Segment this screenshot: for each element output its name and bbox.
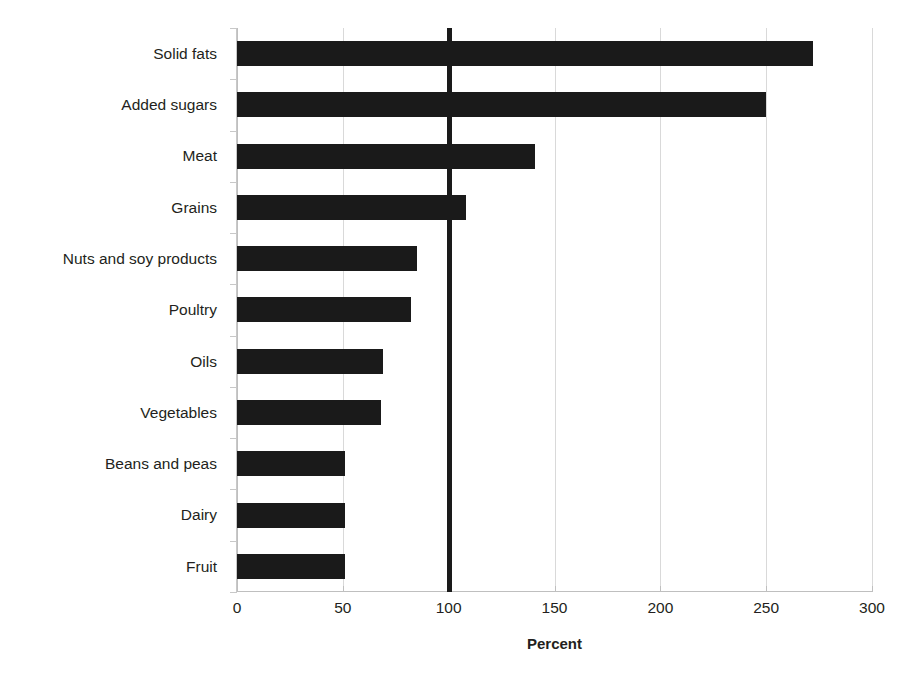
category-label: Fruit bbox=[0, 541, 227, 592]
bar-row bbox=[237, 28, 872, 79]
bar bbox=[237, 195, 466, 220]
bar bbox=[237, 144, 535, 169]
bar-series bbox=[237, 28, 872, 592]
category-label: Poultry bbox=[0, 284, 227, 335]
y-axis-tick bbox=[230, 182, 237, 183]
category-label: Nuts and soy products bbox=[0, 233, 227, 284]
bar-row bbox=[237, 336, 872, 387]
y-axis-tick bbox=[230, 79, 237, 80]
plot-area bbox=[237, 28, 872, 592]
y-axis-tick bbox=[230, 336, 237, 337]
bar-row bbox=[237, 387, 872, 438]
x-axis-tick-label: 200 bbox=[647, 600, 673, 616]
bar-chart: Solid fatsAdded sugarsMeatGrainsNuts and… bbox=[0, 0, 914, 679]
y-axis-tick bbox=[230, 131, 237, 132]
category-label: Added sugars bbox=[0, 79, 227, 130]
bar-row bbox=[237, 541, 872, 592]
y-axis-tick bbox=[230, 592, 237, 593]
bar bbox=[237, 349, 383, 374]
x-axis-title: Percent bbox=[237, 635, 872, 652]
bar-row bbox=[237, 438, 872, 489]
category-axis-labels: Solid fatsAdded sugarsMeatGrainsNuts and… bbox=[0, 28, 227, 592]
reference-line-100 bbox=[447, 28, 452, 592]
y-axis-tick bbox=[230, 541, 237, 542]
category-label: Dairy bbox=[0, 489, 227, 540]
category-label: Solid fats bbox=[0, 28, 227, 79]
bar bbox=[237, 451, 345, 476]
x-axis-tick-label: 150 bbox=[542, 600, 568, 616]
y-axis-tick bbox=[230, 284, 237, 285]
category-label: Grains bbox=[0, 182, 227, 233]
y-axis-tick bbox=[230, 489, 237, 490]
bar bbox=[237, 400, 381, 425]
x-axis-tick bbox=[872, 586, 873, 592]
bar-row bbox=[237, 79, 872, 130]
category-label: Beans and peas bbox=[0, 438, 227, 489]
category-label: Meat bbox=[0, 131, 227, 182]
y-axis-tick bbox=[230, 438, 237, 439]
bar bbox=[237, 41, 813, 66]
bar-row bbox=[237, 489, 872, 540]
y-axis-tick bbox=[230, 387, 237, 388]
x-axis-tick-label: 50 bbox=[334, 600, 351, 616]
bar bbox=[237, 503, 345, 528]
bar-row bbox=[237, 182, 872, 233]
bar-row bbox=[237, 284, 872, 335]
bar bbox=[237, 297, 411, 322]
bar-row bbox=[237, 131, 872, 182]
bar bbox=[237, 92, 766, 117]
x-axis-tick-label: 250 bbox=[753, 600, 779, 616]
x-axis-tick-label: 300 bbox=[859, 600, 885, 616]
category-label: Vegetables bbox=[0, 387, 227, 438]
y-axis-tick bbox=[230, 233, 237, 234]
category-label: Oils bbox=[0, 336, 227, 387]
bar bbox=[237, 246, 417, 271]
y-axis-tick bbox=[230, 28, 237, 29]
x-axis-tick-label: 100 bbox=[436, 600, 462, 616]
bar bbox=[237, 554, 345, 579]
gridline-300 bbox=[872, 28, 873, 592]
bar-row bbox=[237, 233, 872, 284]
x-axis-tick-label: 0 bbox=[233, 600, 242, 616]
